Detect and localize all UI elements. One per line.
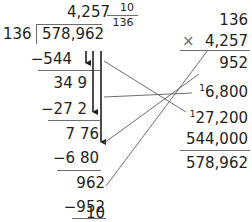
connector-272-to-6800 xyxy=(104,93,192,97)
connector-776-to-952 xyxy=(104,74,199,143)
connector-544-to-27200 xyxy=(104,61,186,112)
connector-962-to-line xyxy=(106,50,208,186)
connector-overlay xyxy=(0,0,252,222)
